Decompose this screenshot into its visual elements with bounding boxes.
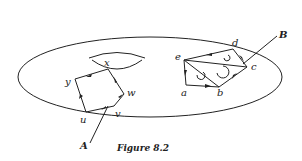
torus-hole-bottom	[92, 60, 142, 69]
label-a: a	[181, 87, 187, 98]
label-e: e	[175, 51, 181, 62]
torus-figure: x y w u v A e a b c d B Figure 8.2	[0, 0, 302, 161]
torus-outline	[18, 37, 282, 117]
figure-caption: Figure 8.2	[116, 143, 169, 153]
label-x: x	[104, 57, 110, 68]
cycle-a	[75, 69, 124, 143]
label-v: v	[115, 108, 121, 119]
label-y: y	[64, 76, 71, 87]
label-c: c	[251, 61, 257, 72]
torus-hole-top	[89, 53, 145, 59]
label-A: A	[79, 140, 88, 151]
label-B: B	[278, 29, 287, 40]
cycle-b	[184, 36, 277, 88]
label-u: u	[80, 114, 86, 125]
label-d: d	[232, 37, 238, 48]
label-b: b	[217, 87, 223, 98]
label-w: w	[127, 87, 136, 98]
